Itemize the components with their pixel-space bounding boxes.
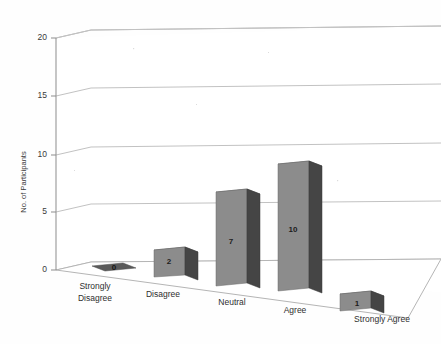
y-tick-label-10: 10 bbox=[38, 149, 48, 159]
bar-value-label: 2 bbox=[167, 257, 172, 266]
x-category-label-line1: Agree bbox=[284, 305, 307, 315]
x-category-label-disagree: Disagree bbox=[146, 289, 180, 299]
bar-value-label: 7 bbox=[229, 237, 234, 246]
bar-value-label: 10 bbox=[289, 225, 298, 234]
y-tick-label-15: 15 bbox=[38, 90, 48, 100]
x-category-label-strongly-agree: Strongly Agree bbox=[354, 314, 410, 324]
bar-side-face bbox=[309, 161, 322, 293]
x-category-label-line1: Neutral bbox=[218, 297, 246, 307]
x-category-label-line1: Strongly bbox=[79, 281, 111, 291]
x-category-label-line2: Disagree bbox=[78, 293, 112, 303]
y-tick-label-0: 0 bbox=[42, 264, 47, 274]
y-axis bbox=[51, 38, 56, 270]
x-category-label-line1: Strongly Agree bbox=[354, 314, 410, 324]
y-tick-label-5: 5 bbox=[42, 206, 47, 216]
bar-side-face bbox=[247, 189, 260, 288]
bar-chart-3d-no-of-participants: 20 15 10 5 0 No. of Participants 0 2 bbox=[0, 0, 441, 344]
bar-disagree: 2 bbox=[154, 247, 198, 280]
y-axis-title: No. of Participants bbox=[19, 151, 28, 213]
x-category-label-strongly-disagree: Strongly Disagree bbox=[78, 281, 112, 303]
x-category-label-neutral: Neutral bbox=[218, 297, 246, 307]
y-tick-label-20: 20 bbox=[38, 32, 48, 42]
bar-agree: 10 bbox=[278, 161, 322, 293]
y-tick-labels: 20 15 10 5 0 bbox=[38, 32, 48, 274]
bar-neutral: 7 bbox=[216, 189, 260, 288]
chart-canvas: 20 15 10 5 0 No. of Participants 0 2 bbox=[0, 0, 441, 344]
bar-value-label: 1 bbox=[355, 299, 360, 308]
y-axis-title-group: No. of Participants bbox=[19, 151, 28, 213]
bar-value-label: 0 bbox=[112, 263, 117, 272]
x-category-label-line1: Disagree bbox=[146, 289, 180, 299]
x-category-label-agree: Agree bbox=[284, 305, 307, 315]
bar-side-face bbox=[185, 247, 198, 280]
